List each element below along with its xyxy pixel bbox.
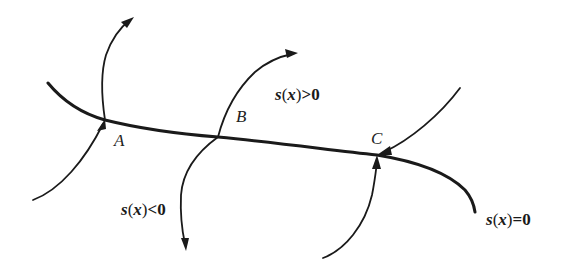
switching-surface-label: s(x)=0	[485, 210, 531, 229]
arrowhead-c-lower-icon	[372, 155, 381, 169]
point-label-a: A	[113, 131, 125, 150]
trajectory-c-lower	[323, 162, 377, 258]
trajectory-a-upper	[102, 20, 130, 120]
region-label-positive: s(x)>0	[274, 85, 320, 104]
switching-surface-curve	[48, 83, 475, 212]
trajectory-b-lower	[181, 137, 218, 244]
region-label-negative: s(x)<0	[120, 200, 166, 219]
point-label-b: B	[236, 107, 247, 126]
arrowhead-b-upper-icon	[285, 49, 298, 58]
point-label-c: C	[371, 129, 383, 148]
trajectory-a-lower	[33, 124, 103, 200]
sliding-mode-diagram: A B C s(x)>0 s(x)<0 s(x)=0	[0, 0, 569, 272]
trajectory-c-upper	[384, 88, 460, 152]
arrowhead-b-lower-icon	[181, 238, 189, 251]
